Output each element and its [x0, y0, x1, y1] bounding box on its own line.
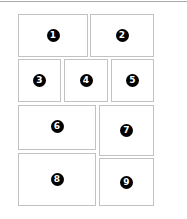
panel-4: 4: [64, 59, 108, 102]
panel-8: 8: [18, 153, 96, 206]
panel-2: 2: [90, 14, 154, 57]
panel-number-badge: 3: [33, 74, 46, 87]
panel-number-badge: 1: [47, 29, 60, 42]
panel-1: 1: [18, 14, 88, 57]
panel-number-badge: 4: [80, 74, 93, 87]
top-divider: [0, 1, 187, 2]
panel-number-badge: 7: [120, 124, 133, 137]
panel-number-badge: 6: [51, 120, 64, 133]
panel-7: 7: [99, 105, 154, 156]
panel-number-badge: 2: [116, 29, 129, 42]
panel-3: 3: [18, 59, 61, 102]
panel-number-badge: 8: [51, 173, 64, 186]
panel-9: 9: [99, 158, 154, 206]
panel-5: 5: [111, 59, 154, 102]
panel-6: 6: [18, 105, 96, 150]
panel-number-badge: 5: [126, 74, 139, 87]
panel-number-badge: 9: [120, 176, 133, 189]
